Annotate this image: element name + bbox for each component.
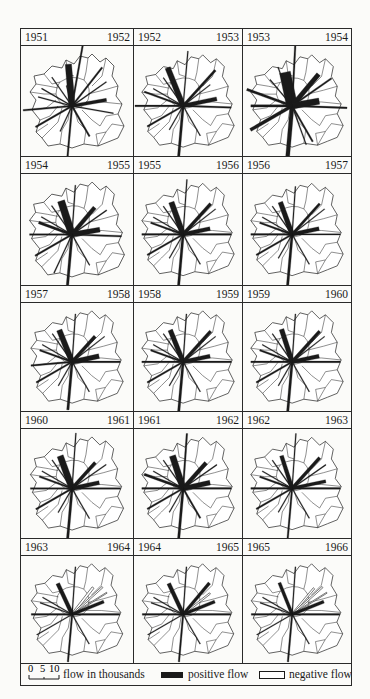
map-panel-1965-1966: 19651966 <box>243 539 351 664</box>
panel-header: 19551956 <box>134 157 242 174</box>
panel-start-year: 1965 <box>247 539 270 555</box>
panel-start-year: 1951 <box>25 29 48 45</box>
panel-map <box>21 429 133 538</box>
flow-map <box>21 46 133 156</box>
flow-map <box>134 556 242 663</box>
panel-end-year: 1959 <box>216 286 239 302</box>
flow-map <box>21 429 133 538</box>
panel-end-year: 1966 <box>325 539 348 555</box>
panel-map <box>134 46 242 156</box>
scale-label: flow in thousands <box>63 668 145 680</box>
map-panel-1956-1957: 19561957 <box>243 157 351 286</box>
panel-header: 19581959 <box>134 286 242 303</box>
flow-map <box>243 429 351 538</box>
panel-start-year: 1952 <box>138 29 161 45</box>
map-panel-1959-1960: 19591960 <box>243 286 351 412</box>
panel-map <box>134 174 242 285</box>
positive-flow-bar <box>72 614 120 616</box>
flow-map <box>21 556 133 663</box>
panel-map <box>243 46 351 156</box>
map-panel-1953-1954: 19531954 <box>243 29 351 157</box>
flow-map-figure: 1951195219521953195319541954195519551956… <box>20 28 352 686</box>
flow-map <box>134 429 242 538</box>
flow-map <box>134 174 242 285</box>
map-panel-1954-1955: 19541955 <box>21 157 134 286</box>
panel-header: 19651966 <box>243 539 351 556</box>
panel-end-year: 1962 <box>216 412 239 428</box>
panel-header: 19561957 <box>243 157 351 174</box>
panel-header: 19511952 <box>21 29 133 46</box>
panel-end-year: 1953 <box>216 29 239 45</box>
map-panel-1962-1963: 19621963 <box>243 412 351 539</box>
scale-bar: 0 5 10 <box>27 662 61 684</box>
panel-header: 19591960 <box>243 286 351 303</box>
positive-flow-label: positive flow <box>188 668 248 680</box>
positive-flow-bar <box>251 488 292 490</box>
map-panel-1952-1953: 19521953 <box>134 29 243 157</box>
panel-map <box>243 429 351 538</box>
positive-flow-bar <box>183 488 231 490</box>
panel-start-year: 1961 <box>138 412 161 428</box>
positive-flow-bar <box>72 361 120 363</box>
positive-flow-bar <box>183 234 231 236</box>
panel-end-year: 1960 <box>325 286 348 302</box>
panel-end-year: 1958 <box>107 286 130 302</box>
negative-flow-swatch <box>259 671 285 679</box>
panel-header: 19521953 <box>134 29 242 46</box>
panel-map <box>243 303 351 411</box>
map-panel-1960-1961: 19601961 <box>21 412 134 539</box>
positive-flow-bar <box>142 234 183 236</box>
map-panel-1964-1965: 19641965 <box>134 539 243 664</box>
panel-end-year: 1963 <box>325 412 348 428</box>
panel-end-year: 1957 <box>325 157 348 173</box>
flow-map <box>134 303 242 411</box>
positive-flow-bar <box>135 105 183 107</box>
flow-map <box>243 46 351 156</box>
positive-flow-bar <box>72 488 121 490</box>
panel-start-year: 1958 <box>138 286 161 302</box>
positive-flow-bar <box>251 234 292 236</box>
flow-map <box>243 303 351 411</box>
panel-header: 19601961 <box>21 412 133 429</box>
panel-start-year: 1960 <box>25 412 48 428</box>
map-panel-1955-1956: 19551956 <box>134 157 243 286</box>
scale-tick-5: 5 <box>40 663 45 674</box>
panel-end-year: 1955 <box>107 157 130 173</box>
panel-start-year: 1963 <box>25 539 48 555</box>
panel-map <box>21 556 133 663</box>
positive-flow-bar <box>31 614 72 616</box>
positive-flow-bar <box>292 234 340 235</box>
panel-end-year: 1961 <box>107 412 130 428</box>
flow-map <box>21 174 133 285</box>
panel-map <box>243 556 351 663</box>
panel-start-year: 1953 <box>247 29 270 45</box>
panel-map <box>243 174 351 285</box>
panel-start-year: 1962 <box>247 412 270 428</box>
flow-map <box>243 556 351 663</box>
panel-grid: 1951195219521953195319541954195519551956… <box>21 29 351 664</box>
positive-flow-bar <box>142 614 183 616</box>
panel-start-year: 1955 <box>138 157 161 173</box>
panel-map <box>21 303 133 411</box>
panel-header: 19541955 <box>21 157 133 174</box>
scale-tick-10: 10 <box>49 663 60 674</box>
scale-tick-0: 0 <box>28 663 33 674</box>
panel-header: 19571958 <box>21 286 133 303</box>
positive-flow-bar <box>292 614 340 616</box>
panel-map <box>134 303 242 411</box>
panel-header: 19531954 <box>243 29 351 46</box>
panel-end-year: 1954 <box>325 29 348 45</box>
panel-start-year: 1964 <box>138 539 161 555</box>
positive-flow-bar <box>251 614 292 616</box>
positive-flow-bar <box>142 488 183 490</box>
panel-end-year: 1952 <box>107 29 130 45</box>
panel-start-year: 1956 <box>247 157 270 173</box>
panel-end-year: 1965 <box>216 539 239 555</box>
positive-flow-bar <box>183 614 231 616</box>
panel-start-year: 1959 <box>247 286 270 302</box>
panel-end-year: 1964 <box>107 539 130 555</box>
flow-map <box>134 46 242 156</box>
map-panel-1961-1962: 19611962 <box>134 412 243 539</box>
positive-flow-bar <box>30 234 72 236</box>
positive-flow-bar <box>30 488 72 490</box>
